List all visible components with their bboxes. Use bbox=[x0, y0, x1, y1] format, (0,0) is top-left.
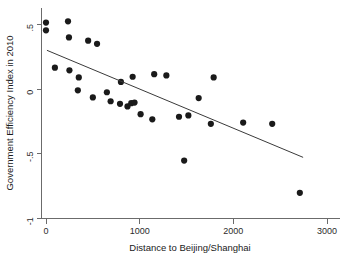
y-tick-label: .5 bbox=[25, 24, 35, 32]
y-tick-label: 0 bbox=[25, 90, 35, 95]
data-point bbox=[52, 65, 58, 71]
x-axis-ticks: 0100020003000 bbox=[43, 219, 337, 237]
data-point bbox=[211, 74, 217, 80]
data-point bbox=[269, 121, 275, 127]
data-point bbox=[176, 114, 182, 120]
data-point bbox=[104, 89, 110, 95]
x-tick-label: 3000 bbox=[317, 226, 337, 236]
regression-line bbox=[47, 50, 303, 157]
data-point bbox=[66, 34, 72, 40]
x-tick-label: 2000 bbox=[223, 226, 243, 236]
y-tick-label: -.5 bbox=[25, 151, 35, 162]
data-point bbox=[181, 157, 187, 163]
x-tick-label: 0 bbox=[43, 226, 48, 236]
x-axis-title: Distance to Beijing/Shanghai bbox=[129, 242, 250, 253]
data-point bbox=[117, 101, 123, 107]
data-point bbox=[130, 74, 136, 80]
data-point bbox=[90, 94, 96, 100]
data-point bbox=[65, 18, 71, 24]
data-point bbox=[43, 27, 49, 33]
data-point bbox=[297, 190, 303, 196]
y-axis-title: Government Efficiency Index in 2010 bbox=[4, 35, 15, 190]
data-point bbox=[208, 121, 214, 127]
scatter-plot-figure: .50-.5-1 0100020003000 Distance to Beiji… bbox=[0, 0, 351, 263]
y-tick-label: -1 bbox=[25, 217, 35, 225]
data-point bbox=[149, 116, 155, 122]
y-axis-ticks: .50-.5-1 bbox=[25, 24, 42, 225]
data-point bbox=[76, 74, 82, 80]
data-point bbox=[163, 72, 169, 78]
data-point bbox=[108, 98, 114, 104]
data-point bbox=[185, 112, 191, 118]
data-point bbox=[75, 87, 81, 93]
data-point bbox=[66, 67, 72, 73]
data-point bbox=[94, 41, 100, 47]
x-tick-label: 1000 bbox=[130, 226, 150, 236]
data-point bbox=[151, 71, 157, 77]
data-point bbox=[138, 111, 144, 117]
data-points-layer bbox=[43, 18, 303, 196]
data-point bbox=[196, 95, 202, 101]
data-point bbox=[240, 119, 246, 125]
chart-canvas: .50-.5-1 0100020003000 Distance to Beiji… bbox=[0, 0, 351, 263]
data-point bbox=[43, 19, 49, 25]
data-point bbox=[131, 99, 137, 105]
data-point bbox=[85, 38, 91, 44]
